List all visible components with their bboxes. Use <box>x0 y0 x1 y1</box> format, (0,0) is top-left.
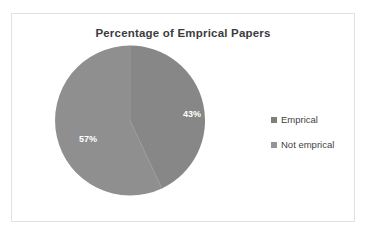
pie-label-not-empirical: 57% <box>79 134 97 144</box>
pie-svg <box>54 43 206 198</box>
legend-swatch-icon <box>271 117 277 123</box>
legend-label-empirical: Emprical <box>281 114 318 125</box>
chart-legend: Emprical Not emprical <box>271 114 357 164</box>
chart-title: Percentage of Emprical Papers <box>12 27 354 39</box>
pie-chart: 43% 57% <box>54 43 206 198</box>
legend-item-not-empirical[interactable]: Not emprical <box>271 139 357 150</box>
legend-label-not-empirical: Not emprical <box>281 139 334 150</box>
legend-item-empirical[interactable]: Emprical <box>271 114 357 125</box>
legend-swatch-icon <box>271 142 277 148</box>
pie-label-empirical: 43% <box>183 109 201 119</box>
chart-frame: Percentage of Emprical Papers 43% 57% Em… <box>11 13 355 222</box>
